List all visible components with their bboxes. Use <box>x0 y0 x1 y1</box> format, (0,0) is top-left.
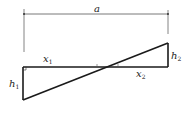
label-x2: x2 <box>136 68 146 80</box>
dimension-tick-left <box>23 13 25 15</box>
dimension-tick-right <box>167 13 169 15</box>
triangle-diagram: a h1 h2 x1 x2 <box>0 0 188 114</box>
label-a: a <box>94 3 100 14</box>
label-h1: h1 <box>9 78 19 90</box>
label-x1: x1 <box>43 53 52 65</box>
label-h2: h2 <box>171 50 181 62</box>
diagonal-line <box>23 43 168 100</box>
